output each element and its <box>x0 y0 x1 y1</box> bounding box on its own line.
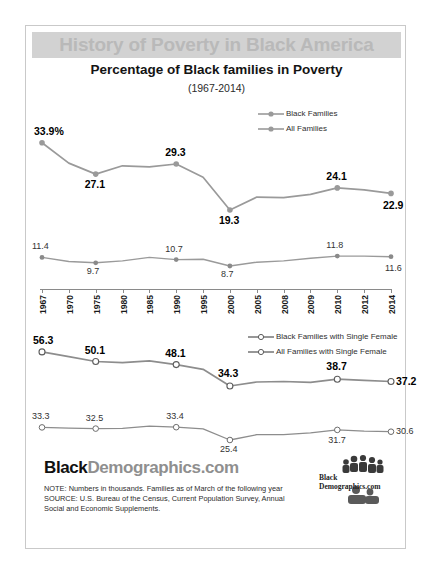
axis-year-label: 1967 <box>38 295 48 314</box>
chart-subtitle: Percentage of Black families in Poverty <box>26 62 407 77</box>
axis-tick <box>391 289 392 293</box>
note-text: NOTE: Numbers in thousands. Families as … <box>44 484 300 494</box>
brand-part-black: Black <box>44 458 87 477</box>
legend-item-all-families[interactable]: All Families <box>258 121 338 136</box>
legend-item-black-families-single-female[interactable]: Black Families with Single Female <box>248 329 397 344</box>
top-line-chart <box>26 98 407 288</box>
axis-tick <box>96 289 97 293</box>
axis-year-label: 1970 <box>65 295 75 314</box>
legend-label: Black Families <box>286 109 338 118</box>
axis-tick <box>337 289 338 293</box>
data-label: 38.7 <box>326 360 346 372</box>
data-label: 10.7 <box>165 244 183 254</box>
banner-title-band: History of Poverty in Black America <box>32 32 401 58</box>
data-label: 31.7 <box>328 435 346 445</box>
legend-item-black-families[interactable]: Black Families <box>258 106 338 121</box>
brand-part-demographics: Demographics.com <box>87 458 238 477</box>
data-label: 8.7 <box>221 269 234 279</box>
bottom-chart-legend: Black Families with Single Female All Fa… <box>248 329 397 359</box>
axis-tick <box>42 289 43 293</box>
data-point <box>173 424 179 430</box>
data-label: 56.3 <box>33 334 53 346</box>
data-label: 48.1 <box>165 347 185 359</box>
logo-caption: Black Demographics.com <box>319 474 380 491</box>
data-point <box>93 359 99 365</box>
axis-year-label: 2014 <box>387 295 397 314</box>
data-label: 29.3 <box>165 146 185 158</box>
brand-wordmark: BlackDemographics.com <box>44 458 239 478</box>
infographic-poster: History of Poverty in Black America Perc… <box>25 25 406 549</box>
data-point <box>335 185 341 191</box>
page-title: History of Poverty in Black America <box>59 34 373 56</box>
black-demographics-logo: Black Demographics.com <box>318 454 390 506</box>
data-point <box>227 383 233 389</box>
axis-tick <box>364 289 365 293</box>
data-point <box>173 161 179 167</box>
data-label: 25.4 <box>220 444 238 454</box>
axis-year-label: 1995 <box>199 295 209 314</box>
data-label: 9.7 <box>87 266 100 276</box>
footer-notes: NOTE: Numbers in thousands. Families as … <box>44 484 300 514</box>
logo-caption-line2: Demographics.com <box>319 483 380 492</box>
legend-label: All Families with Single Female <box>276 347 387 356</box>
data-label: 22.9 <box>383 199 403 211</box>
axis-tick <box>123 289 124 293</box>
data-label: 32.5 <box>86 413 104 423</box>
data-label: 24.1 <box>326 170 346 182</box>
data-point <box>93 260 98 265</box>
data-point <box>228 264 233 269</box>
data-label: 30.6 <box>396 426 414 436</box>
axis-tick <box>69 289 70 293</box>
data-label: 27.1 <box>85 178 105 190</box>
axis-tick <box>284 289 285 293</box>
data-point <box>39 140 45 146</box>
legend-marker-filled-icon <box>258 109 284 119</box>
axis-tick <box>149 289 150 293</box>
data-point <box>335 254 340 259</box>
axis-tick <box>257 289 258 293</box>
axis-tick <box>310 289 311 293</box>
data-point <box>174 257 179 262</box>
data-label: 11.4 <box>32 241 49 251</box>
axis-year-label: 2012 <box>360 295 370 314</box>
top-chart-legend: Black Families All Families <box>258 106 338 136</box>
axis-line <box>40 289 392 290</box>
data-point <box>334 376 340 382</box>
legend-label: All Families <box>286 124 327 133</box>
legend-label: Black Families with Single Female <box>276 332 397 341</box>
data-point <box>335 427 341 433</box>
data-point <box>93 171 99 177</box>
data-label: 34.3 <box>218 367 238 379</box>
data-label: 33.4 <box>166 411 184 421</box>
data-label: 19.3 <box>219 214 239 226</box>
axis-year-label: 2000 <box>226 295 236 314</box>
legend-marker-filled-icon <box>258 124 284 134</box>
legend-marker-hollow-icon <box>248 347 274 357</box>
data-point <box>93 426 99 432</box>
legend-marker-hollow-icon <box>248 332 274 342</box>
data-point <box>227 207 233 213</box>
axis-tick <box>230 289 231 293</box>
axis-year-label: 1990 <box>172 295 182 314</box>
axis-tick <box>176 289 177 293</box>
data-point <box>227 437 233 443</box>
data-point <box>40 255 45 260</box>
data-point <box>388 379 394 385</box>
data-point <box>39 349 45 355</box>
data-label: 33.3 <box>32 411 50 421</box>
legend-item-all-families-single-female[interactable]: All Families with Single Female <box>248 344 397 359</box>
axis-year-label: 1985 <box>145 295 155 314</box>
axis-year-label: 1980 <box>119 295 129 314</box>
data-label: 50.1 <box>85 344 105 356</box>
data-point <box>388 191 394 197</box>
axis-year-label: 2008 <box>280 295 290 314</box>
data-label: 33.9% <box>34 125 64 137</box>
data-point <box>39 425 45 431</box>
axis-year-label: 1975 <box>92 295 102 314</box>
axis-tick <box>203 289 204 293</box>
axis-year-label: 2009 <box>306 295 316 314</box>
axis-year-label: 2005 <box>253 295 263 314</box>
source-text: SOURCE: U.S. Bureau of the Census, Curre… <box>44 494 300 514</box>
data-point <box>173 362 179 368</box>
top-chart-canvas <box>26 98 407 288</box>
